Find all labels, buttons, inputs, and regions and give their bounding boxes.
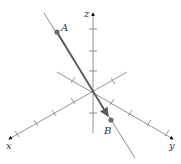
diagram-canvas: A B z x y	[0, 0, 181, 164]
z-axis	[89, 13, 97, 133]
vector-a-to-b	[57, 32, 108, 116]
x-axis-label: x	[6, 140, 12, 151]
z-axis-label: z	[83, 8, 90, 19]
point-a-label: A	[60, 22, 68, 33]
point-a	[54, 29, 59, 34]
point-b	[108, 117, 113, 122]
y-axis-label: y	[168, 140, 175, 151]
point-b-label: B	[103, 125, 111, 136]
y-axis	[57, 72, 173, 139]
